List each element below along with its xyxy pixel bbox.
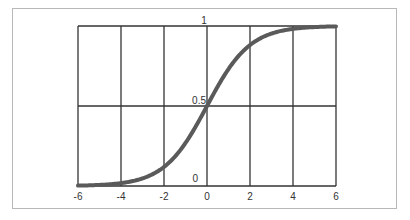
y-tick-0: 0: [192, 173, 198, 184]
x-tick-label: 4: [290, 191, 296, 202]
x-tick-label: -6: [74, 191, 83, 202]
x-tick-label: -4: [117, 191, 126, 202]
x-tick-label: -2: [160, 191, 169, 202]
sigmoid-chart: -6-4-20246 0 0.5 1: [0, 0, 410, 220]
x-tick-label: 6: [333, 191, 339, 202]
x-tick-label: 0: [204, 191, 210, 202]
x-axis-ticks: -6-4-20246: [74, 191, 340, 202]
y-tick-0-5: 0.5: [192, 95, 206, 106]
x-tick-label: 2: [247, 191, 253, 202]
y-tick-1: 1: [201, 15, 207, 26]
